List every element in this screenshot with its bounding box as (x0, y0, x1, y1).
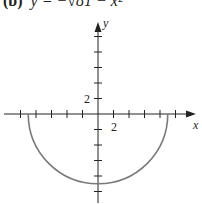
x-tick-label: 2 (111, 120, 117, 134)
y-tick-label: 2 (84, 92, 90, 106)
axes (4, 22, 196, 203)
y-axis-label: y (102, 16, 109, 30)
x-axis-label: x (192, 118, 199, 132)
y-axis-arrow-icon (95, 22, 102, 32)
plot-area: x y 2 2 (0, 0, 202, 204)
x-axis-arrow-icon (186, 111, 196, 118)
